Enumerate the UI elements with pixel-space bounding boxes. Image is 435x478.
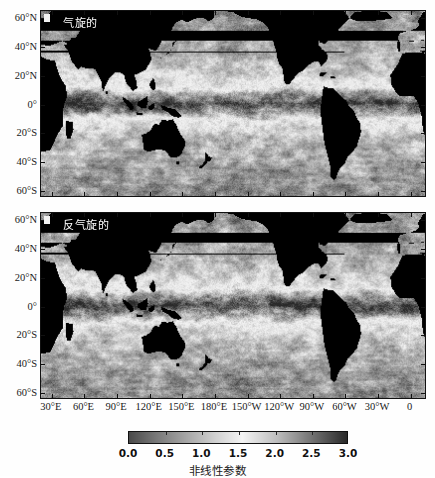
axis-tick bbox=[84, 394, 85, 398]
axis-tick bbox=[41, 307, 45, 308]
colorbar-tick-label: 1.0 bbox=[192, 447, 211, 459]
axis-tick bbox=[280, 213, 281, 217]
axis-tick bbox=[421, 278, 425, 279]
axis-tick bbox=[421, 76, 425, 77]
axis-tick bbox=[421, 249, 425, 250]
axis-tick bbox=[41, 76, 45, 77]
y-tick-label: 40°S bbox=[16, 358, 37, 369]
axis-tick bbox=[52, 11, 53, 15]
y-tick-label: 60°N bbox=[15, 214, 37, 225]
x-axis-labels: 30°E60°E90°E120°E150°E180°E150°W120°W90°… bbox=[40, 401, 426, 417]
axis-tick bbox=[41, 335, 45, 336]
axis-tick bbox=[248, 11, 249, 15]
axis-tick bbox=[421, 307, 425, 308]
axis-tick bbox=[345, 394, 346, 398]
axis-tick bbox=[421, 191, 425, 192]
map-panel-anticyclonic: 反气旋的 bbox=[40, 212, 426, 399]
axis-tick bbox=[345, 213, 346, 217]
y-tick-label: 60°S bbox=[16, 184, 37, 195]
panel-corner-marker-cyclonic bbox=[44, 14, 50, 22]
y-tick-label: 40°N bbox=[15, 242, 37, 253]
axis-tick bbox=[378, 394, 379, 398]
axis-tick bbox=[182, 394, 183, 398]
x-tick-label: 0 bbox=[407, 401, 412, 412]
axis-tick bbox=[41, 162, 45, 163]
axis-tick bbox=[421, 18, 425, 19]
axis-tick bbox=[41, 278, 45, 279]
axis-tick bbox=[182, 213, 183, 217]
x-tick-label: 90°E bbox=[106, 401, 127, 412]
map-raster-cyclonic bbox=[41, 11, 425, 196]
axis-tick bbox=[182, 192, 183, 196]
axis-tick bbox=[313, 394, 314, 398]
axis-tick bbox=[117, 394, 118, 398]
panel-label-cyclonic: 气旋的 bbox=[63, 14, 98, 30]
axis-tick bbox=[215, 394, 216, 398]
axis-tick bbox=[411, 192, 412, 196]
axis-tick bbox=[421, 393, 425, 394]
axis-tick bbox=[150, 394, 151, 398]
axis-tick bbox=[150, 213, 151, 217]
y-tick-label: 60°N bbox=[15, 12, 37, 23]
axis-tick bbox=[150, 192, 151, 196]
axis-tick bbox=[421, 133, 425, 134]
axis-tick bbox=[52, 213, 53, 217]
axis-tick bbox=[215, 11, 216, 15]
colorbar-tick bbox=[239, 432, 240, 435]
axis-tick bbox=[52, 394, 53, 398]
colorbar-tick-label: 0.0 bbox=[119, 447, 138, 459]
x-tick-label: 180°E bbox=[201, 401, 227, 412]
axis-tick bbox=[215, 192, 216, 196]
axis-tick bbox=[41, 249, 45, 250]
colorbar-tick-label: 0.5 bbox=[155, 447, 174, 459]
axis-tick bbox=[421, 105, 425, 106]
axis-tick bbox=[84, 192, 85, 196]
colorbar-tick-label: 3.0 bbox=[339, 447, 358, 459]
axis-tick bbox=[117, 11, 118, 15]
x-tick-label: 30°E bbox=[40, 401, 61, 412]
axis-tick bbox=[280, 11, 281, 15]
axis-tick bbox=[41, 393, 45, 394]
y-tick-label: 0° bbox=[28, 300, 37, 311]
x-tick-label: 60°W bbox=[332, 401, 357, 412]
axis-tick bbox=[117, 192, 118, 196]
axis-tick bbox=[41, 133, 45, 134]
axis-tick bbox=[345, 11, 346, 15]
axis-tick bbox=[378, 192, 379, 196]
y-tick-label: 40°N bbox=[15, 40, 37, 51]
panel-label-anticyclonic: 反气旋的 bbox=[63, 216, 109, 232]
y-tick-label: 20°N bbox=[15, 271, 37, 282]
colorbar-tick bbox=[276, 432, 277, 435]
axis-tick bbox=[41, 47, 45, 48]
axis-tick bbox=[248, 192, 249, 196]
colorbar-tick-label: 2.5 bbox=[302, 447, 321, 459]
x-tick-label: 150°W bbox=[232, 401, 262, 412]
x-tick-label: 30°W bbox=[365, 401, 390, 412]
axis-tick bbox=[41, 105, 45, 106]
x-tick-label: 150°E bbox=[168, 401, 194, 412]
colorbar-tick bbox=[202, 432, 203, 435]
axis-tick bbox=[248, 394, 249, 398]
axis-tick bbox=[421, 364, 425, 365]
axis-tick bbox=[41, 364, 45, 365]
y-tick-label: 60°S bbox=[16, 386, 37, 397]
y-tick-label: 20°N bbox=[15, 69, 37, 80]
axis-tick bbox=[421, 162, 425, 163]
x-tick-label: 120°W bbox=[264, 401, 294, 412]
axis-tick bbox=[421, 335, 425, 336]
map-panel-cyclonic: 气旋的 bbox=[40, 10, 426, 197]
axis-tick bbox=[313, 213, 314, 217]
colorbar-gradient bbox=[129, 432, 347, 443]
axis-tick bbox=[280, 394, 281, 398]
colorbar-tick-labels: 0.00.51.01.52.02.53.0 bbox=[0, 447, 435, 461]
x-tick-label: 60°E bbox=[73, 401, 94, 412]
panel-corner-marker-anticyclonic bbox=[44, 216, 50, 224]
axis-tick bbox=[280, 192, 281, 196]
axis-tick bbox=[421, 220, 425, 221]
y-tick-label: 40°S bbox=[16, 156, 37, 167]
axis-tick bbox=[52, 192, 53, 196]
y-tick-label: 20°S bbox=[16, 127, 37, 138]
map-raster-anticyclonic bbox=[41, 213, 425, 398]
axis-tick bbox=[378, 11, 379, 15]
